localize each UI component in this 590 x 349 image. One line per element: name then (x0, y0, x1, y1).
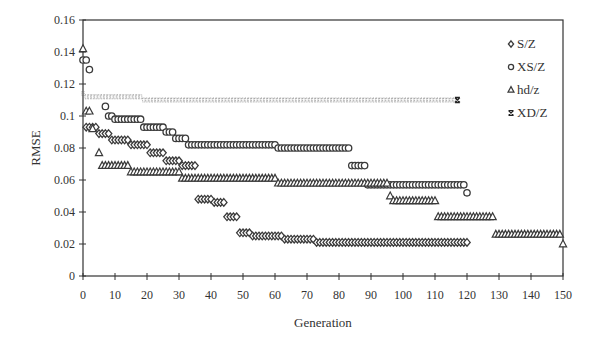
x-tick-label: 120 (458, 288, 476, 302)
y-tick-label: 0.14 (54, 45, 75, 59)
x-tick-label: 100 (394, 288, 412, 302)
legend-label: hd/z (517, 82, 540, 97)
y-axis-title: RMSE (28, 130, 43, 165)
x-tick-label: 20 (141, 288, 153, 302)
y-tick-label: 0 (69, 269, 75, 283)
legend-item: XD/Z (509, 105, 548, 120)
x-tick-label: 110 (426, 288, 444, 302)
x-tick-label: 0 (80, 288, 86, 302)
legend: S/ZXS/Zhd/zXD/Z (508, 36, 547, 120)
legend-label: S/Z (517, 36, 536, 51)
y-tick-label: 0.02 (54, 237, 75, 251)
x-tick-label: 150 (554, 288, 572, 302)
y-tick-label: 0.08 (54, 141, 75, 155)
x-tick-label: 130 (490, 288, 508, 302)
y-tick-label: 0.04 (54, 205, 75, 219)
x-tick-label: 30 (173, 288, 185, 302)
x-tick-label: 10 (109, 288, 121, 302)
y-tick-label: 0.06 (54, 173, 75, 187)
legend-label: XS/Z (517, 59, 545, 74)
legend-item: hd/z (508, 82, 540, 97)
x-tick-label: 60 (269, 288, 281, 302)
x-tick-label: 90 (365, 288, 377, 302)
triangle-icon (508, 87, 514, 93)
x-tick-label: 140 (522, 288, 540, 302)
x-tick-label: 80 (333, 288, 345, 302)
x-tick-label: 70 (301, 288, 313, 302)
legend-item: S/Z (508, 36, 535, 51)
x-tick-label: 50 (237, 288, 249, 302)
rmse-chart: 00.020.040.060.080.10.120.140.16 0102030… (0, 0, 590, 349)
series-layer (79, 45, 566, 247)
circle-icon (508, 64, 513, 69)
y-tick-label: 0.16 (54, 13, 75, 27)
legend-label: XD/Z (517, 105, 547, 120)
y-tick-label: 0.1 (60, 109, 75, 123)
legend-item: XS/Z (508, 59, 545, 74)
y-tick-label: 0.12 (54, 77, 75, 91)
diamond-icon (508, 41, 513, 47)
x-mark-icon (509, 111, 514, 116)
x-axis: 0102030405060708090100110120130140150 (80, 273, 572, 302)
y-axis: 00.020.040.060.080.10.120.140.16 (54, 13, 86, 283)
x-axis-title: Generation (294, 315, 352, 330)
x-tick-label: 40 (205, 288, 217, 302)
series-xd-z (82, 92, 460, 103)
